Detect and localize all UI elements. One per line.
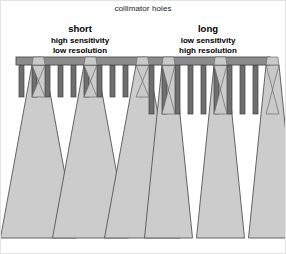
septum-right-5 <box>201 65 206 114</box>
left-resolution-label: low resolution <box>18 46 142 56</box>
left-sensitivity-label: high sensitivity <box>18 36 142 46</box>
septum-left-4 <box>58 65 63 97</box>
septum-left-7 <box>97 65 102 97</box>
septum-left-5 <box>71 65 76 97</box>
collimator-plate-layer <box>16 57 279 65</box>
septum-right-1 <box>149 65 154 114</box>
hole-mouth-right-3 <box>266 57 279 65</box>
hole-mouth-left-3 <box>136 57 149 65</box>
septum-right-8 <box>240 65 245 114</box>
septum-right-9 <box>253 65 258 114</box>
right-sensitivity-label: low sensitivity <box>146 36 270 46</box>
septum-right-4 <box>188 65 193 114</box>
hole-mouth-left-2 <box>84 57 97 65</box>
collimator-diagram-figure: collimator holes short high sensitivity … <box>0 0 286 254</box>
septum-right-7 <box>227 65 232 114</box>
septum-left-1 <box>19 65 24 97</box>
hole-mouth-right-1 <box>162 57 175 65</box>
septum-left-8 <box>110 65 115 97</box>
right-heading: long <box>146 23 270 35</box>
figure-title: collimator holes <box>0 4 286 13</box>
hole-mouth-left-1 <box>32 57 45 65</box>
left-annotation-block: short high sensitivity low resolution <box>18 23 142 56</box>
septum-left-9 <box>123 65 128 97</box>
hole-mouth-right-2 <box>214 57 227 65</box>
right-annotation-block: long low sensitivity high resolution <box>146 23 270 56</box>
right-resolution-label: high resolution <box>146 46 270 56</box>
left-heading: short <box>18 23 142 35</box>
septum-left-3 <box>45 65 50 97</box>
septum-right-3 <box>175 65 180 114</box>
